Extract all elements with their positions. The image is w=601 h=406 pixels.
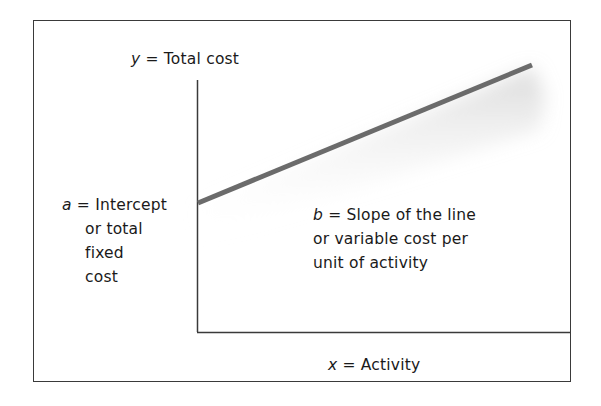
slope-line-3: unit of activity xyxy=(313,251,476,275)
y-axis-text: Total cost xyxy=(164,50,239,68)
equals-sign: = xyxy=(337,356,360,374)
intercept-text: Intercept xyxy=(95,196,167,214)
y-variable: y xyxy=(131,50,140,68)
equals-sign: = xyxy=(323,206,346,224)
intercept-label: a = Intercept or total fixed cost xyxy=(62,193,167,289)
intercept-line-2: or total xyxy=(62,217,167,241)
equals-sign: = xyxy=(140,50,163,68)
slope-text: Slope of the line xyxy=(347,206,477,224)
intercept-line-3: fixed xyxy=(62,241,167,265)
y-axis-label: y = Total cost xyxy=(131,47,239,71)
a-variable: a xyxy=(62,196,72,214)
x-variable: x xyxy=(328,356,337,374)
x-axis-text: Activity xyxy=(361,356,421,374)
slope-first-line: b = Slope of the line xyxy=(313,203,476,227)
b-variable: b xyxy=(313,206,323,224)
slope-label: b = Slope of the line or variable cost p… xyxy=(313,203,476,275)
x-axis-label: x = Activity xyxy=(328,353,420,377)
slope-line-2: or variable cost per xyxy=(313,227,476,251)
intercept-first-line: a = Intercept xyxy=(62,196,167,214)
intercept-line-4: cost xyxy=(62,265,167,289)
equals-sign: = xyxy=(72,196,95,214)
